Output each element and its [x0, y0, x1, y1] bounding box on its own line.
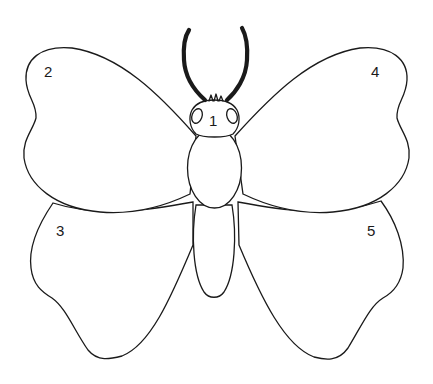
right-antenna [227, 28, 247, 100]
left-hindwing [31, 202, 193, 359]
right-hindwing [238, 201, 403, 359]
label-2: 2 [44, 63, 52, 80]
butterfly-diagram: 1 2 3 4 5 [0, 0, 433, 384]
label-1: 1 [209, 112, 217, 129]
label-3: 3 [56, 222, 64, 239]
left-antenna [184, 30, 205, 100]
abdomen [193, 205, 234, 297]
label-4: 4 [371, 63, 379, 80]
thorax [188, 128, 242, 208]
right-forewing [235, 48, 409, 213]
label-5: 5 [367, 222, 375, 239]
